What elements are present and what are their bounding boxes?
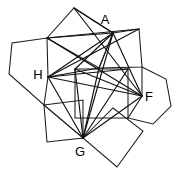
chord-G-to-F	[83, 96, 142, 138]
vertex-label-F: F	[145, 89, 153, 104]
chord-inner-right-to-G	[83, 69, 128, 138]
chord-H-to-G	[48, 77, 83, 138]
chord-G-to-left-pentagon	[44, 105, 83, 138]
chord-G-to-inner-left	[75, 69, 83, 138]
chord-H-to-A	[48, 33, 113, 77]
figure-canvas: AHFG	[0, 0, 189, 174]
vertex-label-A: A	[101, 12, 110, 27]
vertex-label-H: H	[33, 67, 42, 82]
vertex-label-G: G	[75, 144, 85, 159]
polygon-outline-layer	[9, 8, 171, 167]
chord-G-to-upper-apex	[83, 68, 99, 138]
geometry-figure: AHFG	[0, 0, 189, 174]
